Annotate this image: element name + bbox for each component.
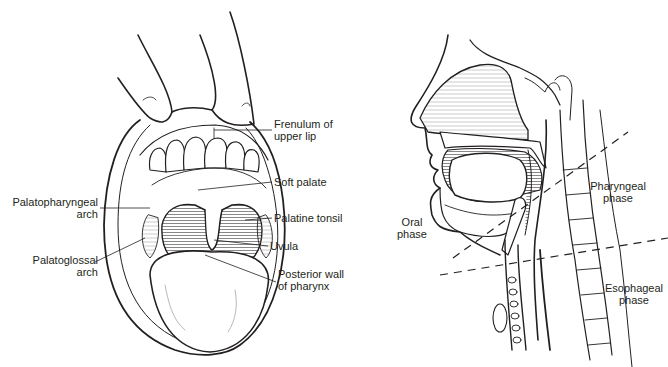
finger-middle: [172, 35, 216, 112]
sagittal-tongue: [449, 153, 526, 202]
nasal-cavity: [420, 64, 528, 140]
label-palatoglossal-arch: Palatoglossal arch: [6, 254, 98, 278]
upper-teeth: [149, 137, 259, 172]
anatomy-illustration: [0, 0, 668, 367]
finger-right: [212, 12, 254, 125]
label-soft-palate: Soft palate: [274, 176, 327, 188]
left-tonsil: [142, 215, 158, 258]
label-esophageal-phase: Esophageal phase: [600, 282, 668, 306]
label-oral-phase: Oral phase: [392, 216, 432, 240]
pharyngeal-esophageal-divider: [440, 238, 668, 275]
label-palatine-tonsil: Palatine tonsil: [274, 212, 343, 224]
label-frenulum: Frenulum of upper lip: [274, 118, 333, 142]
label-palatopharyngeal-arch: Palatopharyngeal arch: [6, 196, 98, 220]
label-uvula: Uvula: [270, 240, 298, 252]
label-posterior-wall: Posterior wall of pharynx: [278, 268, 344, 292]
thyroid: [493, 304, 507, 332]
label-pharyngeal-phase: Pharyngeal phase: [586, 180, 650, 204]
esophagus: [540, 250, 550, 350]
spine-back: [583, 100, 612, 355]
finger-left: [118, 35, 172, 122]
